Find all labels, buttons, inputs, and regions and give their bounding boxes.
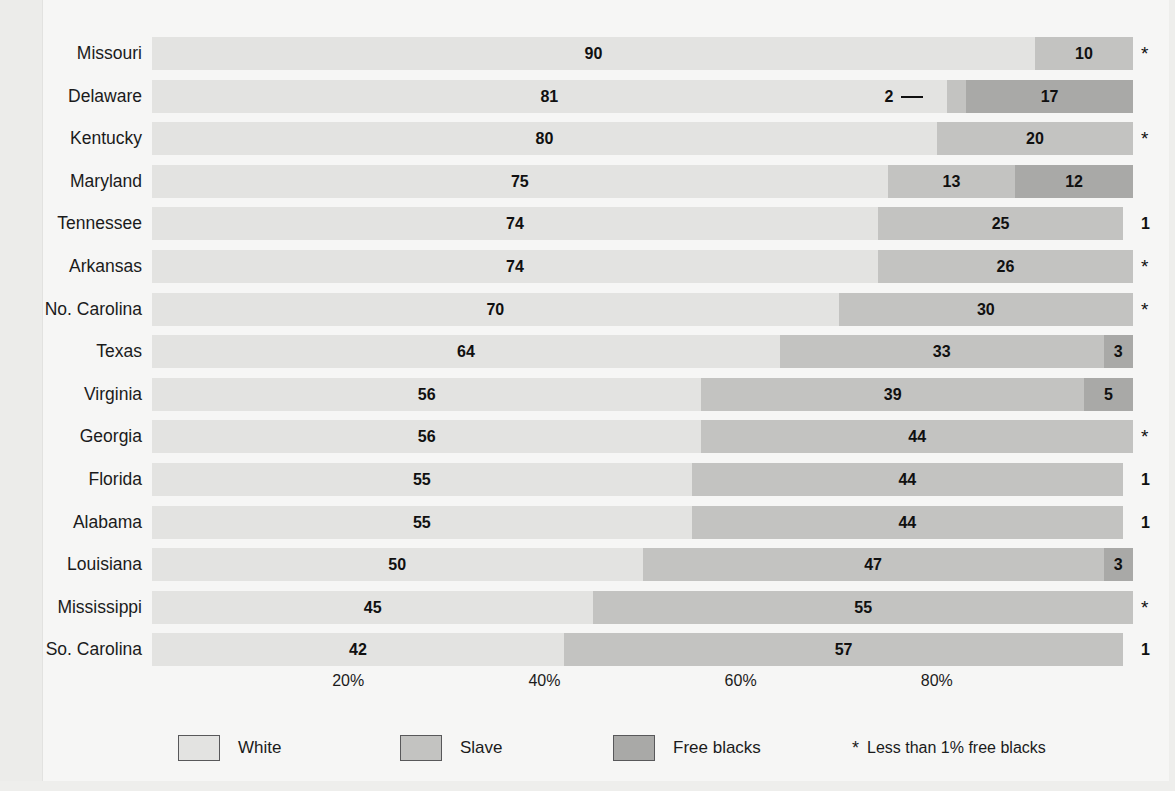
segment-value: 56 [152,420,701,453]
chart-row: Delaware81217 [0,76,1175,116]
segment-value: 55 [152,463,692,496]
row-label-arkansas: Arkansas [0,246,142,286]
chart-row: Virginia56395 [0,374,1175,414]
less-than-one-percent-marker: * [1141,591,1148,624]
segment-callout-label: 2 [885,80,923,113]
legend-label: Free blacks [673,738,761,758]
segment-value: 70 [152,293,839,326]
chart-row: Mississippi4555* [0,587,1175,627]
stacked-bar: 5544 [152,463,1133,496]
chart-row: Georgia5644* [0,416,1175,456]
segment-value: 42 [152,633,564,666]
stacked-bar: 5544 [152,506,1133,539]
chart-row: Louisiana50473 [0,544,1175,584]
segment-value: 44 [701,420,1133,453]
segment-value: 10 [1035,37,1133,70]
segment-value: 47 [643,548,1104,581]
stacked-bar: 50473 [152,548,1133,581]
chart-row: Maryland751312 [0,161,1175,201]
row-label-tennessee: Tennessee [0,203,142,243]
row-label-georgia: Georgia [0,416,142,456]
outside-segment-value: 1 [1141,506,1150,539]
chart-row: Kentucky8020* [0,118,1175,158]
segment-value: 80 [152,122,937,155]
segment-value: 20 [937,122,1133,155]
segment-value: 90 [152,37,1035,70]
callout-leader-line [901,96,923,98]
chart-row: No. Carolina7030* [0,289,1175,329]
less-than-one-percent-marker: * [1141,37,1148,70]
stacked-bar: 81217 [152,80,1133,113]
segment-value: 3 [1104,335,1133,368]
segment-value: 75 [152,165,888,198]
segment-value: 39 [701,378,1084,411]
segment-value: 57 [564,633,1123,666]
chart-row: Florida55441 [0,459,1175,499]
outside-segment-value: 1 [1141,463,1150,496]
row-label-alabama: Alabama [0,502,142,542]
legend-item-free-blacks[interactable]: Free blacks [613,728,761,768]
chart-row: Missouri9010* [0,33,1175,73]
segment-value: 13 [888,165,1016,198]
chart-row: Tennessee74251 [0,203,1175,243]
legend-swatch-icon [178,735,220,761]
row-label-missouri: Missouri [0,33,142,73]
segment-callout-value: 2 [885,88,894,105]
segment-value: 12 [1015,165,1133,198]
stacked-bar: 8020 [152,122,1133,155]
legend-item-slave[interactable]: Slave [400,728,503,768]
segment-value: 50 [152,548,643,581]
stacked-bar: 64333 [152,335,1133,368]
segment-value: 25 [878,207,1123,240]
x-axis-tick-label: 80% [921,672,953,690]
row-label-kentucky: Kentucky [0,118,142,158]
row-label-so-carolina: So. Carolina [0,629,142,669]
stacked-bar: 7425 [152,207,1133,240]
segment-value: 17 [966,80,1133,113]
less-than-one-percent-marker: * [1141,293,1148,326]
footnote-text: Less than 1% free blacks [867,739,1046,757]
row-label-no-carolina: No. Carolina [0,289,142,329]
stacked-bar: 4257 [152,633,1133,666]
segment-value: 3 [1104,548,1133,581]
legend-label: White [238,738,281,758]
footnote-star-icon: * [852,738,859,759]
row-label-maryland: Maryland [0,161,142,201]
segment-value: 26 [878,250,1133,283]
segment-value: 74 [152,207,878,240]
row-label-delaware: Delaware [0,76,142,116]
segment-value: 5 [1084,378,1133,411]
legend-swatch-icon [613,735,655,761]
less-than-one-percent-marker: * [1141,122,1148,155]
segment-value: 55 [152,506,692,539]
stacked-bar: 7426 [152,250,1133,283]
segment-value: 45 [152,591,593,624]
stacked-bar: 4555 [152,591,1133,624]
chart-page: Missouri9010*Delaware81217Kentucky8020*M… [0,0,1175,791]
segment-value: 55 [593,591,1133,624]
row-label-louisiana: Louisiana [0,544,142,584]
outside-segment-value: 1 [1141,633,1150,666]
less-than-one-percent-marker: * [1141,250,1148,283]
segment-value: 33 [780,335,1104,368]
chart-row: Texas64333 [0,331,1175,371]
segment-value: 44 [692,506,1124,539]
stacked-bar: 56395 [152,378,1133,411]
row-label-mississippi: Mississippi [0,587,142,627]
x-axis-tick-label: 60% [725,672,757,690]
legend-item-white[interactable]: White [178,728,281,768]
row-label-florida: Florida [0,459,142,499]
x-axis-tick-label: 20% [332,672,364,690]
segment-value: 30 [839,293,1133,326]
legend-swatch-icon [400,735,442,761]
segment-value: 56 [152,378,701,411]
chart-row: So. Carolina42571 [0,629,1175,669]
stacked-bar: 751312 [152,165,1133,198]
row-label-texas: Texas [0,331,142,371]
x-axis-tick-label: 40% [528,672,560,690]
segment-value: 81 [152,80,947,113]
x-axis: 20%40%60%80% [152,672,1133,698]
chart-row: Arkansas7426* [0,246,1175,286]
row-label-virginia: Virginia [0,374,142,414]
outside-segment-value: 1 [1141,207,1150,240]
